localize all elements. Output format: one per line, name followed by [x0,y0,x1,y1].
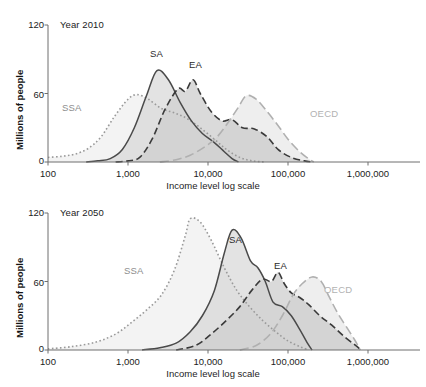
panel-title-2050: Year 2050 [60,207,104,218]
series-label-oecd-2050: OECD [324,284,352,295]
series-label-sa-2010: SA [150,48,163,59]
series-label-ea-2010: EA [189,59,202,70]
x-tick-100000-2050: 100,000 [253,356,323,367]
x-tick-1000000-2050: 1,000,000 [333,356,403,367]
x-tick-10000-2050: 10,000 [173,356,243,367]
y-axis-label-2010: Millions of people [14,70,25,150]
x-axis-label-2050: Income level log scale [0,368,426,379]
chart-panel-2050: Year 2050 Millions of people 120 60 0 10… [0,194,426,387]
x-tick-100000-2010: 100,000 [253,168,323,179]
x-tick-1000000-2010: 1,000,000 [333,168,403,179]
series-label-oecd-2010: OECD [310,108,338,119]
y-tick-120-2010: 120 [18,19,44,30]
y-tick-120-2050: 120 [18,207,44,218]
series-label-sa-2050: SA [229,234,242,245]
x-tick-1000-2010: 1,000 [93,168,163,179]
y-tick-0-2010: 0 [18,155,44,166]
x-tick-100-2010: 100 [13,168,83,179]
chart-panel-2010: Year 2010 Millions of people 120 60 0 10… [0,0,426,193]
x-tick-10000-2010: 10,000 [173,168,243,179]
series-label-ssa-2050: SSA [124,265,144,276]
y-tick-60-2050: 60 [18,277,44,288]
series-label-ssa-2010: SSA [62,102,82,113]
x-tick-100-2050: 100 [13,356,83,367]
x-tick-1000-2050: 1,000 [93,356,163,367]
y-tick-60-2010: 60 [18,89,44,100]
income-distribution-figure: Year 2010 Millions of people 120 60 0 10… [0,0,426,387]
series-label-ea-2050: EA [274,260,287,271]
y-axis-label-2050: Millions of people [14,258,25,338]
panel-title-2010: Year 2010 [60,19,104,30]
y-tick-0-2050: 0 [18,343,44,354]
x-axis-label-2010: Income level log scale [0,180,426,191]
